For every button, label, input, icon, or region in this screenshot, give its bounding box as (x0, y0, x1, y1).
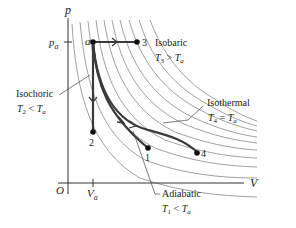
point-a-label: a (85, 35, 91, 47)
isobaric-condition: T3 > Ta (155, 52, 184, 65)
point-3-label: 3 (142, 37, 147, 48)
point-a (90, 39, 96, 45)
isochoric-condition: T2 < Ta (17, 103, 46, 116)
adiabatic-condition: T1 < Ta (162, 203, 191, 216)
adiabatic-path (93, 42, 148, 148)
pv-diagram: p V O pa Va a 3 2 1 4 Isobaric T3 > Ta I… (0, 0, 296, 228)
va-label: Va (87, 187, 98, 202)
adiabatic-annotation: Adiabatic T1 < Ta (162, 188, 201, 216)
point-2 (90, 129, 96, 135)
v-axis-label: V (250, 176, 259, 190)
arrowheads (89, 38, 136, 128)
isothermal-condition: T4 = Ta (208, 112, 237, 125)
point-2-label: 2 (89, 137, 94, 148)
isochoric-annotation: Isochoric T2 < Ta (16, 88, 54, 116)
pv-diagram-svg: p V O pa Va a 3 2 1 4 Isobaric T3 > Ta I… (0, 0, 296, 228)
point-4 (194, 150, 200, 156)
pa-label: pa (48, 36, 59, 51)
point-1-label: 1 (145, 152, 150, 163)
isothermal-title: Isothermal (207, 97, 250, 108)
origin-label: O (56, 184, 64, 196)
adiabatic-title: Adiabatic (162, 188, 201, 199)
isothermal-annotation: Isothermal T4 = Ta (207, 97, 250, 125)
point-1 (145, 145, 151, 151)
p-axis-label: p (64, 3, 71, 17)
isobaric-annotation: Isobaric T3 > Ta (155, 37, 188, 65)
isochoric-title: Isochoric (16, 88, 54, 99)
point-3 (134, 39, 140, 45)
isobaric-title: Isobaric (155, 37, 188, 48)
isochoric-leader (59, 75, 90, 95)
point-4-label: 4 (201, 148, 206, 159)
